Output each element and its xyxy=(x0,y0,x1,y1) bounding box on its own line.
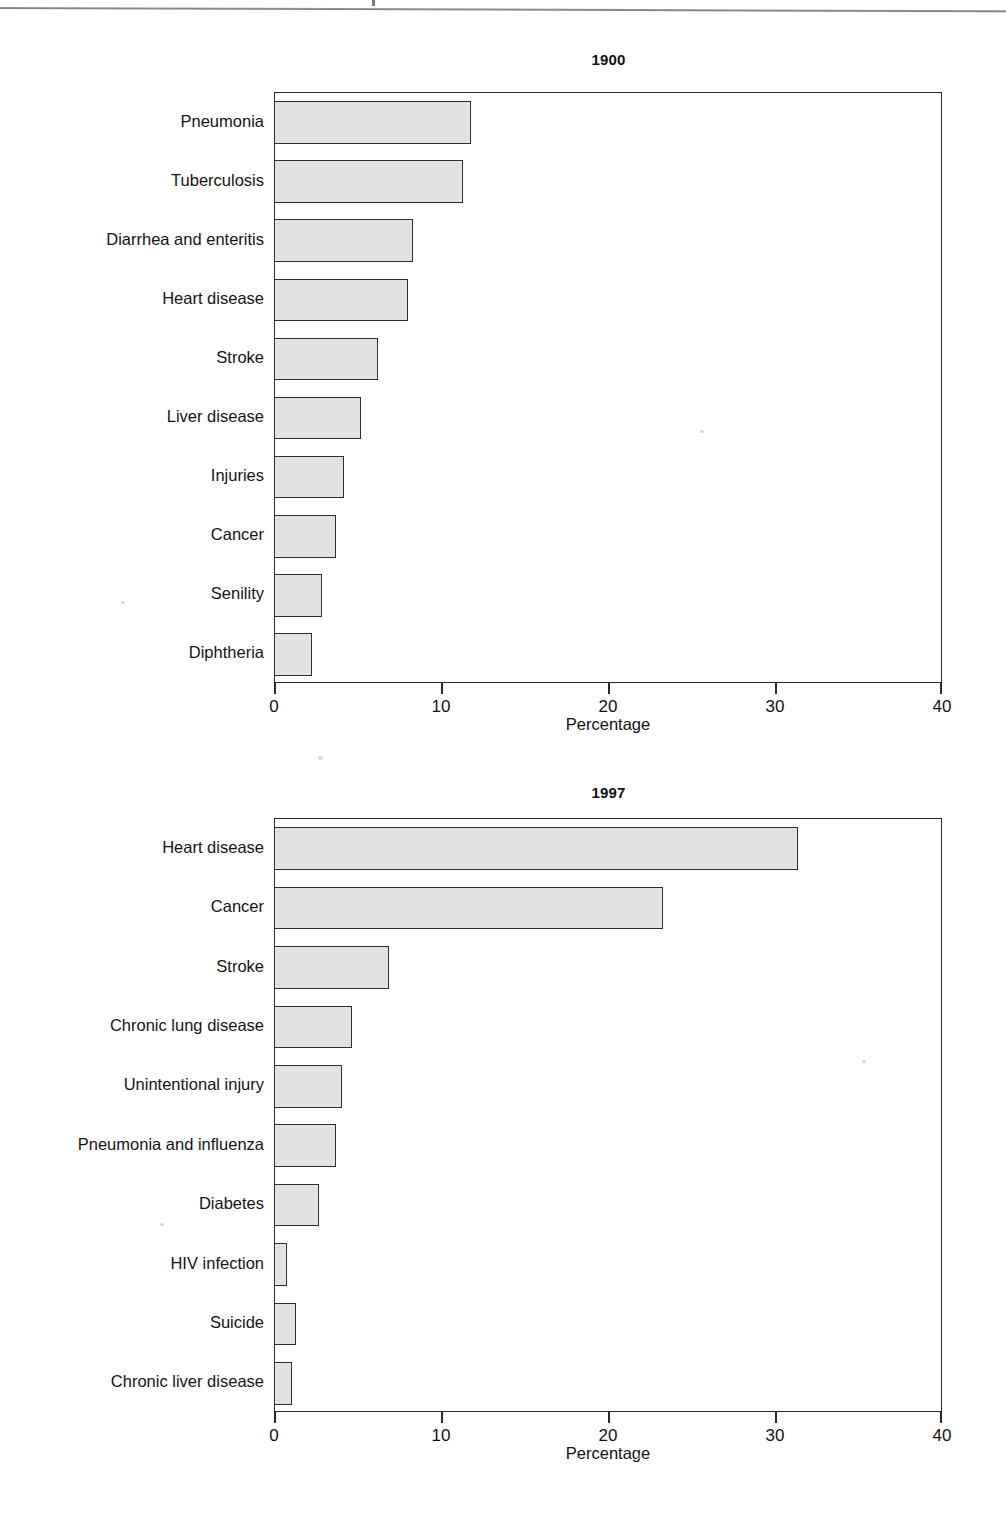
bar xyxy=(274,1065,342,1108)
x-tick-label: 40 xyxy=(933,697,952,717)
bar xyxy=(274,1006,352,1049)
category-label: Suicide xyxy=(0,1314,264,1331)
category-label: Injuries xyxy=(0,467,264,484)
category-label: Unintentional injury xyxy=(0,1076,264,1093)
category-label: Stroke xyxy=(0,958,264,975)
x-axis: 010203040 xyxy=(274,1412,942,1413)
scan-speck xyxy=(121,601,125,604)
bar xyxy=(274,827,798,870)
bar xyxy=(274,887,663,930)
bar-row xyxy=(275,515,941,558)
x-tick xyxy=(608,683,610,694)
category-label: Tuberculosis xyxy=(0,172,264,189)
category-label: Diphtheria xyxy=(0,644,264,661)
bar xyxy=(274,1243,287,1286)
bar-row xyxy=(275,633,941,676)
x-tick-label: 30 xyxy=(766,1426,785,1446)
bar xyxy=(274,633,312,676)
bar-row xyxy=(275,1243,941,1286)
category-label: Heart disease xyxy=(0,839,264,856)
x-tick-label: 0 xyxy=(269,697,278,717)
bar-row xyxy=(275,1065,941,1108)
scan-speck xyxy=(318,756,323,760)
x-tick-label: 40 xyxy=(933,1426,952,1446)
scan-speck xyxy=(700,430,704,433)
bar-row xyxy=(275,219,941,262)
x-tick-label: 10 xyxy=(432,1426,451,1446)
category-label: Stroke xyxy=(0,349,264,366)
category-label: Diarrhea and enteritis xyxy=(0,231,264,248)
plot-area xyxy=(274,818,942,1412)
x-tick xyxy=(274,683,276,694)
bar-row xyxy=(275,1124,941,1167)
x-tick xyxy=(274,1412,276,1423)
bar xyxy=(274,219,413,262)
bar-row xyxy=(275,279,941,322)
bar-row xyxy=(275,1006,941,1049)
x-tick xyxy=(775,683,777,694)
x-tick xyxy=(940,683,942,694)
bar-row xyxy=(275,1303,941,1346)
bar xyxy=(274,101,471,144)
page-top-rule xyxy=(0,7,1006,12)
bar xyxy=(274,1303,296,1346)
bar-row xyxy=(275,946,941,989)
category-label: Chronic lung disease xyxy=(0,1017,264,1034)
scan-speck xyxy=(862,1060,866,1063)
bar-row xyxy=(275,827,941,870)
x-tick-label: 0 xyxy=(269,1426,278,1446)
category-label: Senility xyxy=(0,585,264,602)
x-tick xyxy=(775,1412,777,1423)
bar xyxy=(274,397,361,440)
category-label: Cancer xyxy=(0,526,264,543)
page-top-mark xyxy=(372,0,375,6)
x-tick-label: 20 xyxy=(599,697,618,717)
bar xyxy=(274,456,344,499)
bar xyxy=(274,515,336,558)
x-axis-title: Percentage xyxy=(274,1444,942,1463)
x-tick xyxy=(608,1412,610,1423)
x-tick-label: 20 xyxy=(599,1426,618,1446)
bar-row xyxy=(275,397,941,440)
x-tick xyxy=(441,1412,443,1423)
bar-row xyxy=(275,1184,941,1227)
bar xyxy=(274,1362,292,1405)
category-label: HIV infection xyxy=(0,1255,264,1272)
bar-row xyxy=(275,574,941,617)
x-axis: 010203040 xyxy=(274,683,942,684)
bar-series xyxy=(275,93,941,682)
category-label: Liver disease xyxy=(0,408,264,425)
x-tick-label: 30 xyxy=(766,697,785,717)
x-tick-label: 10 xyxy=(432,697,451,717)
bar xyxy=(274,574,322,617)
bar xyxy=(274,338,378,381)
chart-title: 1900 xyxy=(274,51,943,68)
bar xyxy=(274,1124,336,1167)
bar-row xyxy=(275,160,941,203)
category-label: Pneumonia xyxy=(0,113,264,130)
x-tick xyxy=(441,683,443,694)
bar xyxy=(274,1184,319,1227)
bar-row xyxy=(275,338,941,381)
bar-row xyxy=(275,1362,941,1405)
category-label: Heart disease xyxy=(0,290,264,307)
bar xyxy=(274,279,408,322)
bar-row xyxy=(275,887,941,930)
x-axis-title: Percentage xyxy=(274,715,942,734)
category-label: Cancer xyxy=(0,898,264,915)
bar-row xyxy=(275,101,941,144)
category-label: Diabetes xyxy=(0,1195,264,1212)
chart-title: 1997 xyxy=(274,784,943,801)
bar-row xyxy=(275,456,941,499)
category-label: Chronic liver disease xyxy=(0,1373,264,1390)
bar-series xyxy=(275,819,941,1411)
bar xyxy=(274,160,463,203)
category-label: Pneumonia and influenza xyxy=(0,1136,264,1153)
scan-speck xyxy=(160,1223,164,1226)
plot-area xyxy=(274,92,942,683)
scan-speck xyxy=(636,1455,641,1459)
x-tick xyxy=(940,1412,942,1423)
bar xyxy=(274,946,389,989)
